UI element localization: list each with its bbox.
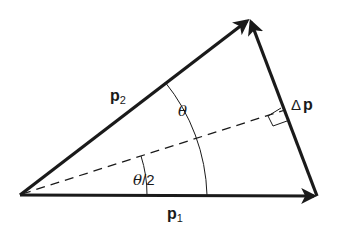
- label-p2: p2: [110, 87, 126, 106]
- right-angle-marker: [268, 116, 287, 126]
- label-half-theta: θ/2: [133, 171, 155, 189]
- vector-diagram: p2 θ Δp θ/2 p1: [0, 0, 342, 226]
- label-delta-p: Δp: [291, 96, 313, 113]
- right-angle-marker-top: [268, 108, 281, 116]
- label-theta: θ: [178, 102, 187, 120]
- vector-p2: [20, 21, 247, 195]
- label-p1: p1: [167, 205, 183, 224]
- theta-arc: [165, 82, 207, 195]
- vector-p1: [20, 195, 314, 196]
